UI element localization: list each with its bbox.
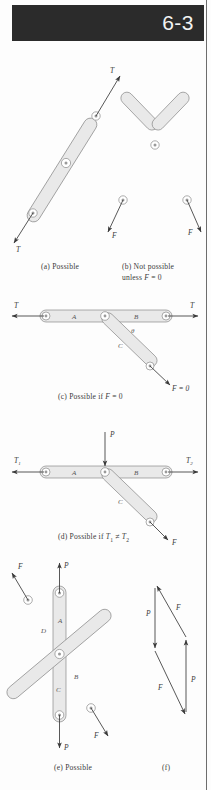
member-label-d-b: B xyxy=(134,469,139,477)
caption-c-tail: = 0 xyxy=(110,392,123,401)
force-label-f-p-right: P xyxy=(190,675,196,684)
textbook-page: 6-3 .mem{fill:#e9e9e9;stroke:#8a8a8a;str… xyxy=(0,0,216,790)
force-label-f-f-bottom: F xyxy=(157,683,163,692)
member-label-e-d: D xyxy=(40,627,46,635)
member-a-body xyxy=(25,116,100,225)
caption-d-sub2: 2 xyxy=(126,537,129,543)
caption-a: (a) Possible xyxy=(41,262,79,271)
caption-f: (f) xyxy=(162,763,170,772)
force-label-c-f0: F = 0 xyxy=(171,384,189,393)
force-label-d-f: F xyxy=(171,538,177,547)
figure-c: T T F = 0 A B C θ xyxy=(12,301,198,393)
member-label-e-a: A xyxy=(57,617,63,625)
caption-c-prefix: (c) Possible if xyxy=(58,392,105,401)
pin-d-left-dot xyxy=(45,471,48,474)
force-arrow-e-f-top xyxy=(12,573,28,600)
force-label-c-right: T xyxy=(190,301,195,310)
force-arrow-d-f xyxy=(150,522,168,540)
member-label-d-c: C xyxy=(118,498,123,506)
figure-d: T1 T2 P F A B C xyxy=(12,430,198,547)
force-label-d-t2: T2 xyxy=(186,456,193,466)
force-label-d-p: P xyxy=(109,430,115,439)
member-label-e-b: B xyxy=(74,673,79,681)
force-arrow-a-top xyxy=(96,76,120,116)
caption-b-line2: unless F = 0 xyxy=(122,273,162,282)
force-label-e-f-top: F xyxy=(17,562,23,571)
force-label-f-p-left: P xyxy=(145,609,151,618)
pin-c-center-dot xyxy=(104,315,107,318)
member-label-c-c: C xyxy=(118,342,123,350)
pin-d-right-dot xyxy=(165,471,168,474)
figure-e: F P F P A D C B xyxy=(4,561,113,752)
pin-d-center-dot xyxy=(104,471,107,474)
caption-b-prefix: unless xyxy=(122,273,144,282)
figure-f: P F F P xyxy=(145,586,196,714)
force-label-a-bottom: T xyxy=(16,245,21,254)
force-arrow-c-diagonal xyxy=(150,366,170,385)
force-label-c-left: T xyxy=(14,301,19,310)
caption-e: (e) Possible xyxy=(54,763,92,772)
force-label-e-f-bottom: F xyxy=(93,731,99,740)
angle-label-c-theta: θ xyxy=(131,327,135,335)
caption-b-line1: (b) Not possible xyxy=(122,262,174,271)
force-label-f-f-top: F xyxy=(175,603,181,612)
member-label-d-a: A xyxy=(71,469,77,477)
member-label-c-a: A xyxy=(71,313,77,321)
caption-d-neq: ≠ xyxy=(113,532,122,541)
force-label-a-top: T xyxy=(110,66,115,75)
pin-b-apex-dot xyxy=(154,144,157,147)
figure-b: F F xyxy=(108,90,201,240)
force-vector-f-f-top xyxy=(157,586,186,637)
caption-b-tail: = 0 xyxy=(149,273,162,282)
member-label-c-b: B xyxy=(134,313,139,321)
figure-a: T T xyxy=(14,66,120,254)
caption-c: (c) Possible if F = 0 xyxy=(58,392,123,401)
force-label-e-p-bottom: P xyxy=(63,743,69,752)
force-arrow-a-bottom xyxy=(14,213,33,243)
force-label-e-p-top: P xyxy=(63,561,69,570)
force-label-b-left: F xyxy=(111,231,117,240)
pin-c-left-dot xyxy=(45,315,48,318)
caption-d: (d) Possible if T1 ≠ T2 xyxy=(58,532,129,543)
force-arrow-b-left xyxy=(108,200,123,232)
pin-a-mid-dot xyxy=(65,162,68,165)
force-label-d-t1: T1 xyxy=(14,456,21,466)
force-label-b-right: F xyxy=(187,228,193,237)
pin-e-center-dot xyxy=(58,653,61,656)
member-label-e-c: C xyxy=(56,686,61,694)
member-b-right xyxy=(150,90,192,133)
caption-d-prefix: (d) Possible if xyxy=(58,532,106,541)
pin-c-right-dot xyxy=(165,315,168,318)
